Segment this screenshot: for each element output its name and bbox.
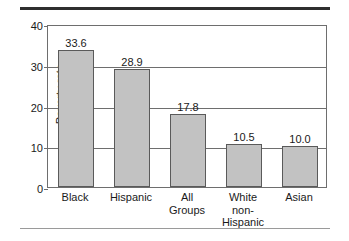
bar-value-label: 10.0 [289,133,310,145]
x-category-label-line: non- [215,204,271,217]
y-tick-label: 40 [31,20,43,32]
x-category-label: Asian [271,191,327,204]
bar: 10.5 [226,144,262,187]
x-category-label-line: Asian [271,191,327,204]
y-tick-mark [44,189,48,190]
y-tick-label: 10 [31,142,43,154]
x-category-label-line: Black [47,191,103,204]
x-category-label-line: Hispanic [215,216,271,229]
x-category-label-line: White [215,191,271,204]
x-category-label: Black [47,191,103,204]
x-category-label: Hispanic [103,191,159,204]
figure-container: Poverty rate 010203040 33.628.917.810.51… [0,0,349,241]
bar-value-label: 17.8 [177,101,198,113]
x-category-label: AllGroups [159,191,215,216]
bar: 28.9 [114,69,150,187]
bar: 10.0 [282,146,318,187]
x-category-label-line: Hispanic [103,191,159,204]
bar-value-label: 33.6 [65,37,86,49]
x-category-label-line: Groups [159,204,215,217]
bar-value-label: 10.5 [233,131,254,143]
y-tick-label: 0 [37,183,43,195]
x-axis-category-labels: BlackHispanicAllGroupsWhitenon-HispanicA… [47,191,327,239]
x-category-label-line: All [159,191,215,204]
bar-series: 33.628.917.810.510.0 [48,26,326,187]
bar: 17.8 [170,114,206,187]
bar: 33.6 [58,50,94,187]
bottom-rule-divider [20,228,330,229]
y-tick-label: 30 [31,61,43,73]
plot-area: Poverty rate 010203040 33.628.917.810.51… [47,25,327,188]
y-tick-label: 20 [31,102,43,114]
top-rule-divider [20,7,330,10]
x-category-label: Whitenon-Hispanic [215,191,271,229]
bar-value-label: 28.9 [121,56,142,68]
